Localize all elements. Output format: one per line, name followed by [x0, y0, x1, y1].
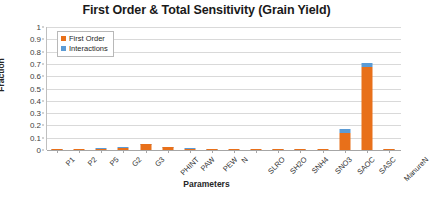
x-axis-tick-mark [367, 150, 368, 153]
y-axis-tick-label: 0.7 [30, 59, 41, 68]
bar-slot [112, 27, 134, 150]
legend-label: Interactions [69, 44, 108, 53]
x-axis-tick-mark [146, 150, 147, 153]
legend-item[interactable]: Interactions [61, 44, 108, 53]
bar-slot [267, 27, 289, 150]
y-axis-tick-label: 0.2 [30, 121, 41, 130]
x-axis-tick-mark [389, 150, 390, 153]
x-axis-tick-label: G2 [130, 155, 143, 168]
y-axis-tick-label: 0.6 [30, 72, 41, 81]
x-axis-tick-label: PEW [221, 155, 239, 173]
y-axis-tick-label: 1 [37, 23, 41, 32]
bar-slot [334, 27, 356, 150]
bar-slot [179, 27, 201, 150]
x-axis-tick-label: PAW [199, 155, 217, 173]
legend-item[interactable]: First Order [61, 34, 108, 43]
bar-slot [157, 27, 179, 150]
legend-label: First Order [69, 34, 105, 43]
x-axis-tick-label: SNO3 [333, 155, 354, 176]
y-axis-tick-mark [42, 100, 44, 101]
x-axis-tick-mark [256, 150, 257, 153]
y-axis-tick-label: 0.8 [30, 47, 41, 56]
y-axis-tick-label: 0 [37, 146, 41, 155]
x-axis-tick-mark [168, 150, 169, 153]
x-axis-tick-label: G3 [152, 155, 165, 168]
y-axis-tick-label: 0.9 [30, 35, 41, 44]
x-axis-title: Parameters [0, 179, 413, 189]
y-axis-tick-mark [42, 51, 44, 52]
x-axis-tick-label: SH2O [288, 155, 309, 176]
y-axis-tick-mark [42, 150, 44, 151]
x-axis-tick-label: P5 [108, 155, 121, 168]
y-axis-tick-mark [42, 76, 44, 77]
bar-stack[interactable] [339, 129, 350, 150]
bar-slot [201, 27, 223, 150]
x-axis-tick-label: SAOC [355, 155, 376, 176]
x-axis-tick-mark [79, 150, 80, 153]
bar-slot [356, 27, 378, 150]
bar-slot [289, 27, 311, 150]
legend-swatch-icon [61, 46, 66, 51]
y-axis-tick-mark [42, 88, 44, 89]
x-axis-tick-mark [345, 150, 346, 153]
x-axis-tick-label: PHINT [178, 155, 200, 177]
y-axis-tick-label: 0.3 [30, 109, 41, 118]
bar-slot [378, 27, 400, 150]
x-axis-tick-mark [190, 150, 191, 153]
x-axis-tick-label: P2 [86, 155, 99, 168]
x-axis-tick-mark [57, 150, 58, 153]
bar-segment [339, 133, 350, 150]
y-axis-ticks: 10.90.80.70.60.50.40.30.20.10 [0, 27, 44, 150]
y-axis-tick-mark [42, 137, 44, 138]
y-axis-tick-label: 0.5 [30, 84, 41, 93]
x-axis-tick-mark [300, 150, 301, 153]
y-axis-tick-mark [42, 39, 44, 40]
y-axis-tick-mark [42, 125, 44, 126]
chart-legend: First OrderInteractions [57, 31, 114, 57]
x-axis-tick-mark [212, 150, 213, 153]
bar-slot [312, 27, 334, 150]
legend-swatch-icon [61, 36, 66, 41]
x-axis-tick-mark [101, 150, 102, 153]
y-axis-tick-label: 0.1 [30, 133, 41, 142]
x-axis-tick-label: SLRO [266, 155, 287, 176]
bar-slot [245, 27, 267, 150]
x-axis-tick-label: SASC [377, 155, 398, 176]
bar-segment [361, 67, 372, 150]
bar-stack[interactable] [361, 63, 372, 150]
y-axis-tick-mark [42, 27, 44, 28]
bar-slot [223, 27, 245, 150]
x-axis-tick-mark [123, 150, 124, 153]
x-axis-tick-mark [234, 150, 235, 153]
chart-title: First Order & Total Sensitivity (Grain Y… [0, 3, 413, 17]
x-axis-tick-mark [323, 150, 324, 153]
x-axis-tick-label: SNH4 [310, 155, 331, 176]
bar-slot [135, 27, 157, 150]
y-axis-tick-label: 0.4 [30, 96, 41, 105]
y-axis-tick-mark [42, 113, 44, 114]
x-axis-tick-label: N [240, 155, 250, 165]
y-axis-tick-mark [42, 63, 44, 64]
x-axis-tick-mark [278, 150, 279, 153]
x-axis-tick-label: P1 [64, 155, 77, 168]
